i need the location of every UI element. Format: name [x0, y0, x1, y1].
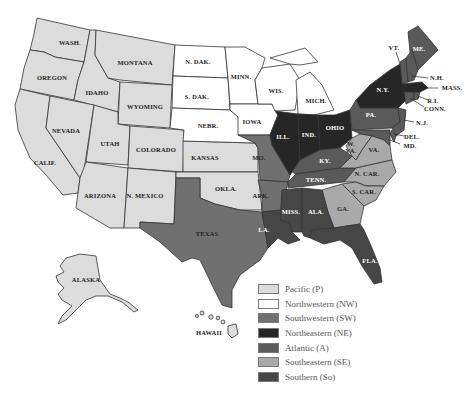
- label-texas: TEXAS: [196, 230, 219, 237]
- legend-label: Northeastern (NE): [285, 328, 352, 338]
- label-miss: MISS.: [282, 208, 301, 215]
- label-wis: WIS.: [268, 87, 283, 94]
- legend-item-atlantic: Atlantic (A): [258, 340, 357, 355]
- legend-item-northeastern: Northeastern (NE): [258, 326, 357, 341]
- state-conn[interactable]: [404, 92, 414, 104]
- label-calif: CALIF.: [34, 159, 57, 166]
- swatch-southwestern: [258, 313, 279, 323]
- label-ala: ALA.: [308, 208, 324, 215]
- label-idaho: IDAHO: [85, 89, 108, 96]
- state-fla[interactable]: [310, 224, 382, 284]
- label-arizona: ARIZONA: [84, 192, 116, 199]
- swatch-southern: [258, 372, 279, 382]
- leader-md: [390, 140, 400, 144]
- state-ri[interactable]: [414, 92, 420, 100]
- label-la: LA.: [258, 226, 269, 233]
- label-nj: N.J.: [416, 119, 428, 126]
- label-wyoming: WYOMING: [127, 103, 163, 110]
- label-alaska: ALASKA: [72, 276, 100, 283]
- state-montana[interactable]: [95, 30, 175, 85]
- label-ind: IND.: [302, 131, 317, 138]
- legend-label: Southwestern (SW): [285, 313, 356, 323]
- label-conn: CONN.: [424, 105, 446, 112]
- label-tenn: TENN.: [306, 176, 327, 183]
- label-ohio: OHIO: [326, 124, 345, 131]
- label-me: ME.: [413, 45, 426, 52]
- us-regions-map: WASH. OREGON CALIF. IDAHO NEVADA MONTANA…: [0, 0, 470, 398]
- state-mass[interactable]: [402, 82, 428, 92]
- label-colorado: COLORADO: [136, 146, 176, 153]
- label-mass: MASS.: [442, 84, 463, 91]
- label-ga: GA.: [337, 205, 349, 212]
- legend-label: Southeastern (SE): [285, 357, 350, 367]
- label-nevada: NEVADA: [52, 127, 80, 134]
- label-mo: MO.: [252, 154, 266, 161]
- legend-label: Atlantic (A): [285, 343, 329, 353]
- swatch-pacific: [258, 284, 279, 294]
- label-nh: N.H.: [430, 74, 444, 81]
- legend-item-pacific: Pacific (P): [258, 282, 357, 297]
- label-scar: S. CAR.: [352, 188, 376, 195]
- legend-item-northwestern: Northwestern (NW): [258, 297, 357, 312]
- label-ncar: N. CAR.: [354, 170, 379, 177]
- leader-nj: [404, 120, 414, 122]
- label-ark: ARK.: [253, 192, 270, 199]
- legend-item-southern: Southern (So): [258, 370, 357, 385]
- label-minn: MINN.: [231, 73, 252, 80]
- label-wva-1: W.: [347, 140, 355, 147]
- label-mich: MICH.: [305, 97, 326, 104]
- legend-item-southwestern: Southwestern (SW): [258, 311, 357, 326]
- label-ri: R.I.: [427, 97, 438, 104]
- legend-label: Northwestern (NW): [285, 299, 357, 309]
- label-nmexico: N. MEXICO: [126, 192, 163, 199]
- label-ill: ILL.: [276, 133, 290, 140]
- state-alaska[interactable]: [56, 254, 138, 324]
- label-nebr: NEBR.: [198, 122, 219, 129]
- swatch-southeastern: [258, 357, 279, 367]
- swatch-northeastern: [258, 328, 279, 338]
- label-va: VA.: [369, 146, 380, 153]
- label-sdak: S. DAK.: [185, 93, 210, 100]
- legend-label: Southern (So): [285, 372, 335, 382]
- leader-vt: [396, 52, 400, 64]
- label-iowa: IOWA: [243, 118, 262, 125]
- label-ndak: N. DAK.: [185, 58, 211, 65]
- label-fla: FLA.: [362, 257, 378, 264]
- legend: Pacific (P) Northwestern (NW) Southweste…: [258, 282, 357, 384]
- legend-label: Pacific (P): [285, 284, 323, 294]
- label-ky: KY.: [319, 157, 331, 164]
- label-oregon: OREGON: [37, 74, 67, 81]
- legend-item-southeastern: Southeastern (SE): [258, 355, 357, 370]
- label-ny: N.Y.: [377, 86, 390, 93]
- label-okla: OKLA.: [215, 185, 237, 192]
- label-montana: MONTANA: [117, 59, 152, 66]
- label-wash: WASH.: [59, 39, 81, 46]
- swatch-northwestern: [258, 299, 279, 309]
- swatch-atlantic: [258, 343, 279, 353]
- label-pa: PA.: [366, 111, 377, 118]
- label-vt: VT.: [389, 44, 400, 51]
- label-wva-2: VA.: [346, 147, 357, 154]
- label-del: DEL.: [404, 133, 420, 140]
- label-kansas: KANSAS: [191, 154, 219, 161]
- label-hawaii: HAWAII: [196, 329, 222, 336]
- label-utah: UTAH: [100, 140, 119, 147]
- label-md: MD.: [403, 142, 416, 149]
